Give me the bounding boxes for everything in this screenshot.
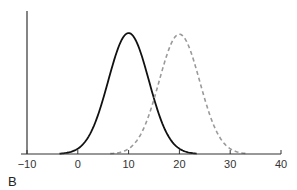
solid-curve [60,33,197,154]
x-tick-label: −10 [18,158,37,170]
x-tick-label: 10 [122,158,134,170]
x-axis-ticks: −10010203040 [18,150,287,170]
x-tick-label: 40 [275,158,287,170]
panel-label: B [8,174,17,189]
x-tick-label: 0 [75,158,81,170]
chart: −10010203040 B [0,0,297,190]
x-tick-label: 30 [224,158,236,170]
x-tick-label: 20 [173,158,185,170]
curves [60,33,248,154]
dashed-curve [110,34,247,153]
